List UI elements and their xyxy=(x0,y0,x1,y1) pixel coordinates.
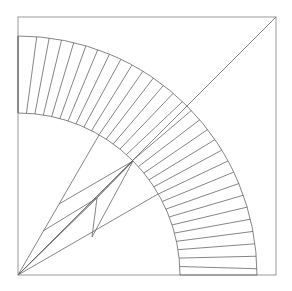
ring-segment-line xyxy=(133,110,192,160)
ring-segment-line xyxy=(166,184,239,210)
construction-line xyxy=(43,198,97,231)
ring-segment-line xyxy=(60,46,86,119)
diagram-canvas xyxy=(0,0,292,291)
ring-segment-line xyxy=(106,78,153,139)
ring-segment-line xyxy=(169,195,243,217)
ring-segment-line xyxy=(178,244,255,250)
ring-segment-line xyxy=(120,93,173,149)
ring-segment-line xyxy=(113,85,163,144)
ring-segment-line xyxy=(144,130,208,174)
construction-line xyxy=(18,135,99,275)
ring-segment-line xyxy=(43,40,61,115)
ring-segment-line xyxy=(180,267,257,269)
ring-segment-line xyxy=(179,256,256,258)
construction-line xyxy=(97,161,133,198)
ring-segment-line xyxy=(138,120,199,167)
ring-segment-line xyxy=(176,231,253,241)
construction-line xyxy=(92,161,133,237)
ring-segment-line xyxy=(35,38,49,114)
ring-segment-line xyxy=(149,140,215,180)
ring-segment-line xyxy=(92,65,132,131)
ring-segment-line xyxy=(99,71,143,134)
ring-segment-line xyxy=(52,43,74,117)
ring-segment-line xyxy=(172,207,247,225)
ring-segment-line xyxy=(126,102,182,155)
ring-segment-line xyxy=(26,37,36,113)
